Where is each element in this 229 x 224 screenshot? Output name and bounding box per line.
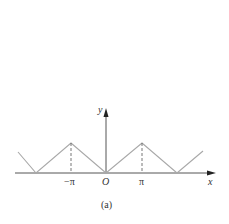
x-axis-arrow-icon (207, 171, 216, 176)
triangle-wave-diagram (0, 0, 229, 224)
figure-caption: (a) (101, 200, 112, 210)
origin-label: O (102, 177, 109, 187)
tick-label-minus-pi: −π (64, 177, 75, 187)
x-axis-label: x (208, 177, 212, 187)
triangle-wave-curve (18, 143, 203, 173)
y-axis-label: y (98, 105, 102, 115)
y-axis-arrow-icon (104, 108, 109, 117)
tick-label-pi: π (139, 177, 144, 187)
